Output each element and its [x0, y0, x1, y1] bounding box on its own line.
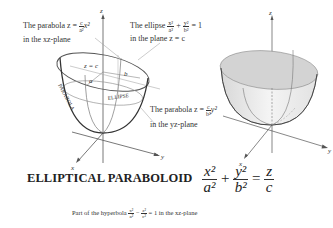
- svg-text:y: y: [327, 147, 332, 155]
- label-parabola: PARABOLA: [57, 83, 76, 112]
- svg-text:z: z: [268, 9, 272, 17]
- label-ellipse: ELLIPSE: [107, 92, 130, 101]
- annotation-ellipse: The ellipse x²a² + y²b² = 1 in the plane…: [130, 20, 202, 44]
- annotation-hyperbola: Part of the hyperbola x²a² − z²c² = 1 in…: [72, 208, 197, 219]
- svg-text:x: x: [70, 164, 75, 170]
- label-z-eq-c: z = c: [83, 62, 99, 70]
- svg-text:y: y: [160, 153, 165, 161]
- diagram-title: ELLIPTICAL PARABOLOID: [27, 171, 192, 186]
- right-paraboloid-diagram: z y x: [215, 8, 333, 170]
- svg-text:b: b: [124, 70, 128, 78]
- svg-text:z: z: [99, 7, 103, 15]
- annotation-parabola-yz: The parabola z = cb²y² in the yz-plane: [150, 104, 217, 130]
- paraboloid-equation: x²a² + y²b² = zc: [202, 164, 274, 195]
- svg-text:a: a: [89, 77, 93, 85]
- annotation-parabola-xz: The parabola z = c a² x² in the xz-plane: [23, 20, 90, 45]
